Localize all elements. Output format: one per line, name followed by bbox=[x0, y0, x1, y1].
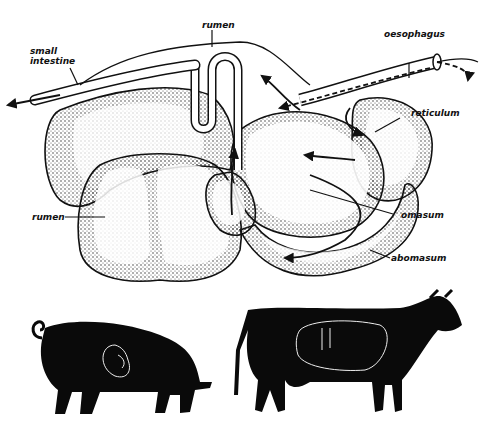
label-reticulum: reticulum bbox=[411, 108, 460, 118]
pig-silhouette bbox=[33, 322, 212, 414]
stomach-illustration bbox=[35, 42, 478, 281]
label-small-intestine-1: small bbox=[30, 46, 57, 56]
label-rumen-top: rumen bbox=[202, 20, 235, 30]
label-omasum: omasum bbox=[401, 210, 444, 220]
cow-silhouette bbox=[234, 290, 462, 412]
label-small-intestine-2: intestine bbox=[30, 56, 75, 66]
label-abomasum: abomasum bbox=[391, 253, 446, 263]
label-oesophagus: oesophagus bbox=[384, 29, 445, 39]
label-rumen-left: rumen bbox=[32, 212, 65, 222]
ruminant-stomach-diagram: rumen small intestine oesophagus reticul… bbox=[0, 0, 490, 424]
